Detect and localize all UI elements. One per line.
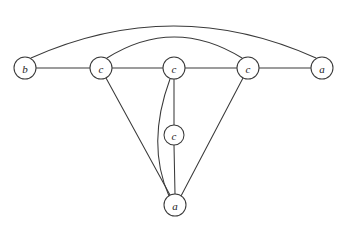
edge-c2-a-bottom [106,78,170,195]
node-c3[interactable]: c [163,57,185,79]
edge-c4-a-bottom [181,78,243,196]
graph-canvas: b c c c a c [0,0,344,227]
edge-layer [31,26,316,196]
node-c3-label: c [172,63,177,75]
edge-c5-a-bottom [174,145,175,194]
node-c2[interactable]: c [90,57,112,79]
node-b[interactable]: b [14,57,36,79]
edge-c2-c4-inner-arc [107,37,242,58]
node-c2-label: c [99,63,104,75]
node-c4[interactable]: c [237,57,259,79]
node-c4-label: c [246,63,251,75]
node-c5-label: c [172,130,177,142]
node-a-right-label: a [319,63,325,75]
graph-figure: b c c c a c [0,0,344,227]
node-c5[interactable]: c [164,125,184,145]
edge-b-a-outer-arc [31,26,316,58]
node-a-bottom[interactable]: a [164,194,186,216]
node-b-label: b [22,63,28,75]
node-a-right[interactable]: a [311,57,333,79]
node-a-bottom-label: a [172,200,178,212]
